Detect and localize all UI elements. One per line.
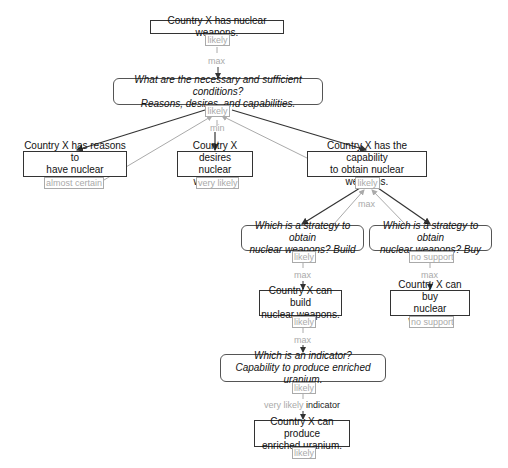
node-text: Country X can produce [255,416,349,440]
likelihood-label: very likely [196,177,239,189]
likelihood-label: likely [292,251,316,263]
operator-label: min [210,123,225,133]
likelihood-label: likely [292,447,316,459]
node-text: Which is a strategy to obtain [242,220,363,244]
node-question-build: Which is a strategy to obtain nuclear we… [241,225,364,251]
likelihood-label: likely [205,34,230,46]
node-text: Country X desires [178,140,252,164]
node-uranium: Country X can produce enriched uranium. [254,420,350,447]
node-root: Country X has nuclear weapons. [150,20,284,34]
operator-label: max [208,56,225,66]
node-question-conditions: What are the necessary and sufficient co… [113,78,323,105]
likelihood-label: likely [205,105,230,117]
indicator-value: very likely [264,400,304,410]
operator-label: max [294,270,311,280]
operator-label: max [294,335,311,345]
node-text: Country X can buy [391,279,469,303]
node-capability: Country X has the capability to obtain n… [307,151,427,177]
node-question-buy: Which is a strategy to obtain nuclear we… [369,225,492,251]
likelihood-label: no support [409,316,454,328]
operator-label: max [358,199,375,209]
node-build: Country X can build nuclear weapons. [259,290,342,316]
node-text: Which is an indicator? [221,350,385,362]
indicator-operator: very likely indicator [264,400,340,410]
node-text: Country X can build [260,285,341,309]
node-buy: Country X can buy nuclear weapons. [390,290,470,316]
node-question-indicator: Which is an indicator? Capability to pro… [220,354,386,382]
likelihood-label: likely [292,382,316,394]
node-reasons: Country X has reasons to have nuclear we… [23,151,127,177]
likelihood-label: likely [355,177,380,189]
indicator-word: indicator [306,400,340,410]
likelihood-label: no support [409,251,454,263]
node-desires: Country X desires nuclear weapons. [177,151,253,177]
node-text: Country X has reasons to [24,140,126,164]
node-text: Which is a strategy to obtain [370,220,491,244]
node-text: Country X has the capability [308,140,426,164]
likelihood-label: almost certain [44,177,104,189]
likelihood-label: likely [292,316,316,328]
node-text: What are the necessary and sufficient co… [114,74,322,98]
